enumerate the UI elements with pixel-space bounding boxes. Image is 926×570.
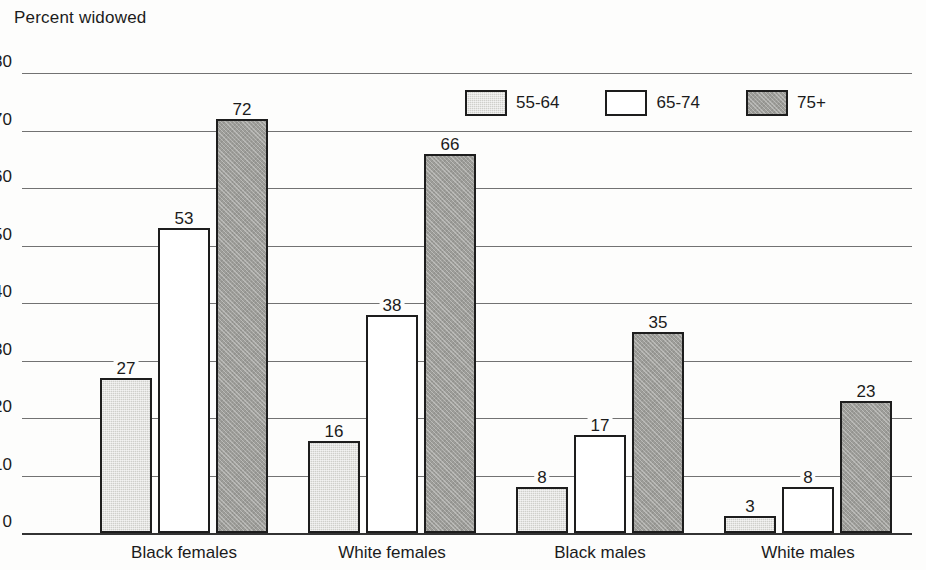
x-axis-line [22,533,912,535]
gridline-70 [22,131,912,132]
bar-value-label: 17 [588,417,613,434]
bar-black-males-65-74[interactable]: 17 [574,435,626,533]
bar-black-females-65-74[interactable]: 53 [158,228,210,533]
bar-value-label: 23 [854,383,879,400]
chart-figure: Percent widowed 010203040506070802753721… [0,0,926,570]
chart-title: Percent widowed [14,8,146,28]
bar-value-label: 72 [230,101,255,118]
y-axis-tick-80: 80 [0,53,12,73]
bar-value-label: 53 [172,210,197,227]
legend-item-65-74[interactable]: 65-74 [605,90,699,116]
legend-label: 55-64 [516,93,559,113]
bar-value-label: 8 [534,469,549,486]
bar-white-females-65-74[interactable]: 38 [366,315,418,534]
bar-value-label: 66 [438,136,463,153]
bar-black-males-75plus[interactable]: 35 [632,332,684,533]
legend-swatch-icon [746,90,788,116]
bar-value-label: 3 [742,498,757,515]
bar-white-males-55-64[interactable]: 3 [724,516,776,533]
gridline-80 [22,73,912,74]
category-label-white-females: White females [338,543,446,563]
y-axis-tick-50: 50 [0,226,12,246]
category-label-black-males: Black males [554,543,646,563]
bar-black-males-55-64[interactable]: 8 [516,487,568,533]
legend-swatch-icon [605,90,647,116]
bar-white-females-55-64[interactable]: 16 [308,441,360,533]
legend-label: 65-74 [656,93,699,113]
category-label-black-females: Black females [131,543,237,563]
category-label-white-males: White males [761,543,855,563]
bar-white-males-65-74[interactable]: 8 [782,487,834,533]
chart-legend: 55-6465-7475+ [465,83,826,123]
bar-black-females-75plus[interactable]: 72 [216,119,268,533]
bar-value-label: 27 [114,360,139,377]
bar-white-females-75plus[interactable]: 66 [424,154,476,534]
bar-black-females-55-64[interactable]: 27 [100,378,152,533]
legend-swatch-icon [465,90,507,116]
plot-area: 01020304050607080275372163866817353823 [22,73,912,533]
bar-value-label: 16 [322,423,347,440]
bar-value-label: 35 [646,314,671,331]
legend-label: 75+ [797,93,826,113]
legend-item-55-64[interactable]: 55-64 [465,90,559,116]
legend-item-75plus[interactable]: 75+ [746,90,826,116]
bar-value-label: 38 [380,297,405,314]
y-axis-tick-20: 20 [0,398,12,418]
bar-value-label: 8 [800,469,815,486]
y-axis-tick-10: 10 [0,456,12,476]
y-axis-tick-40: 40 [0,283,12,303]
y-axis-tick-60: 60 [0,168,12,188]
y-axis-tick-70: 70 [0,111,12,131]
y-axis-tick-30: 30 [0,341,12,361]
y-axis-tick-0: 0 [3,513,12,533]
bar-white-males-75plus[interactable]: 23 [840,401,892,533]
